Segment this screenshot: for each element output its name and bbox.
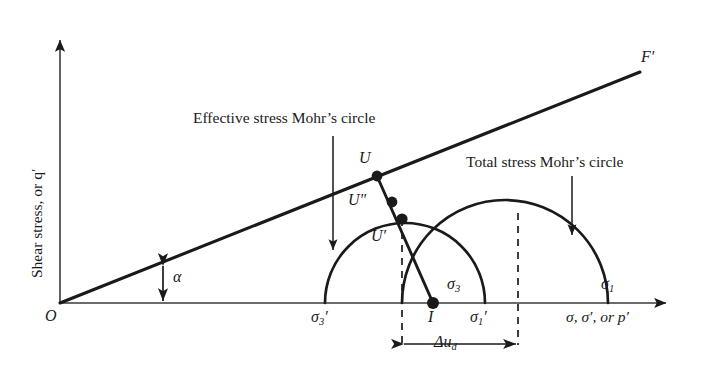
alpha-angle-label: α [173,269,181,285]
sigma1-total-base: σ [601,275,609,292]
sigma3-total-label: σ3 [447,276,460,294]
sigma1-total-sub: 1 [609,283,614,294]
delta-ud-sub: d [451,341,456,352]
point-U-prime-label: U′ [371,228,386,244]
y-axis-title: Shear stress, or q′ [28,169,46,278]
sigma1-total-label: σ1 [601,276,614,294]
x-axis-title-text: σ, σ′, or p′ [566,308,629,325]
effective-stress-callout: Effective stress Mohr’s circle [193,110,375,126]
failure-envelope-line [60,72,640,303]
effective-stress-callout-text: Effective stress Mohr’s circle [193,109,375,126]
point-U-label: U [359,150,371,166]
total-stress-callout: Total stress Mohr’s circle [466,154,623,170]
sigma3-total-base: σ [447,275,455,292]
sigma1-effective-label: σ1′ [470,309,487,327]
point-U-dot [372,171,383,182]
point-U-label-text: U [359,149,371,166]
point-I-label: I [428,309,433,325]
sigma3-effective-base: σ [311,308,319,325]
failure-line-label: F′ [641,49,654,65]
total-stress-callout-text: Total stress Mohr’s circle [466,153,623,170]
sigma3-effective-prime: ′ [324,308,328,325]
failure-line-label-text: F′ [641,48,654,65]
sigma3-effective-label: σ3′ [311,309,328,327]
delta-ud-base: Δu [434,333,451,350]
sigma1-effective-base: σ [470,308,478,325]
mohr-circle-figure: Shear stress, or q′ σ, σ′, or p′ O F′ α … [0,0,715,382]
point-U-prime-dot [396,213,407,224]
origin-label-text: O [45,307,57,324]
delta-ud-label: Δud [434,334,457,352]
alpha-angle-label-text: α [173,268,181,285]
origin-label: O [45,308,57,324]
point-U-double-prime-label-text: U″ [348,191,366,208]
y-axis-title-text: Shear stress, or q′ [28,169,45,278]
effective-stress-mohr-circle [325,223,485,303]
total-stress-mohr-circle [402,200,608,303]
point-U-prime-label-text: U′ [371,227,386,244]
sigma3-total-sub: 3 [455,283,460,294]
x-axis-title: σ, σ′, or p′ [566,309,629,325]
sigma1-effective-prime: ′ [483,308,487,325]
point-U-double-prime-label: U″ [348,192,366,208]
point-I-label-text: I [428,308,433,325]
point-U-double-prime-dot [387,197,398,208]
